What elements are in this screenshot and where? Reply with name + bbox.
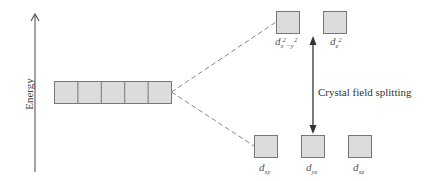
degenerate-orbitals: [55, 82, 172, 104]
label-dxz: dxz: [353, 161, 364, 176]
splitting-label: Crystal field splitting: [318, 86, 412, 98]
orbital-box-dyz: [302, 136, 325, 158]
connector-lower: [172, 92, 255, 146]
label-dxy: dxy: [259, 161, 271, 176]
orbital-box-dxz: [349, 136, 372, 158]
label-dyz: dyz: [306, 161, 317, 176]
label-dx2-y2: dx2−y2: [275, 35, 297, 50]
energy-axis-label: Energy: [23, 77, 35, 111]
orbital-box-dxy: [255, 136, 278, 158]
connector-upper: [172, 22, 277, 92]
orbital-box-dz2: [324, 12, 347, 34]
label-dz2: dz2: [330, 35, 342, 50]
orbital-box-dx2-y2: [277, 12, 300, 34]
